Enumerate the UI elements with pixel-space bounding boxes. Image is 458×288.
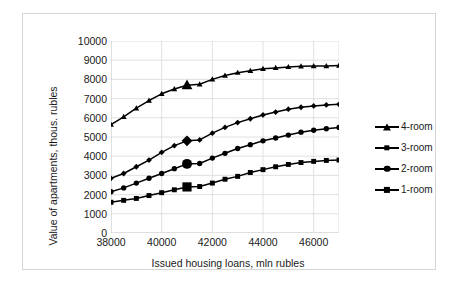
data-point-marker [311,103,317,109]
data-point-marker [324,158,329,163]
legend-item-label: 3-room [401,142,433,153]
y-tick-label: 9000 [61,55,107,65]
y-tick-label: 10000 [61,36,107,46]
data-point-marker [111,175,114,181]
data-point-marker [286,162,291,167]
x-axis-title: Issued housing loans, mln rubles [83,257,373,269]
data-point-marker [134,180,139,185]
legend-item-label: 2-room [401,163,433,174]
y-tick-label: 3000 [61,170,107,180]
legend-item-label: 4-room [401,121,433,132]
x-tick-label: 42000 [198,236,227,248]
data-point-marker [248,142,253,147]
data-point-marker [298,130,303,135]
chart-legend: 4-room3-room2-room1-room [375,118,451,202]
data-point-marker [311,128,316,133]
chart-screenshot: Value of apartments, thous. rubles 01000… [0,0,458,288]
y-tick-label: 5000 [61,132,107,142]
series-4-room [111,63,339,127]
legend-key-diamond-icon [375,142,399,154]
y-axis-tick-labels: 0100020003000400050006000700080009000100… [57,41,107,233]
y-tick-label: 8000 [61,74,107,84]
legend-item-4-room[interactable]: 4-room [375,118,451,135]
data-point-marker [273,164,278,169]
data-point-marker [222,151,227,156]
data-point-marker [210,181,215,186]
data-point-marker [159,171,164,176]
data-point-marker [336,101,339,107]
data-point-marker [111,200,113,205]
legend-item-3-room[interactable]: 3-room [375,139,451,156]
data-point-marker [311,159,316,164]
data-point-marker [121,185,126,190]
data-point-marker [273,109,279,115]
series-line [111,104,339,178]
data-point-marker [235,146,240,151]
data-point-marker [111,189,114,194]
data-point-marker [197,137,203,143]
data-point-marker [235,120,241,126]
data-point-marker [197,184,202,189]
plot-area [111,41,339,233]
x-tick-label: 46000 [299,236,328,248]
legend-marker-triangle-icon [383,123,391,130]
data-point-marker [121,198,126,203]
legend-key-square-icon [375,184,399,196]
series-3-room [111,101,339,181]
data-point-marker [159,190,164,195]
data-point-marker [285,106,291,112]
data-point-marker [182,159,192,169]
data-point-marker [223,177,228,182]
legend-key-circle-icon [375,163,399,175]
data-point-marker [336,125,339,130]
data-point-marker [273,135,278,140]
data-point-marker [286,132,291,137]
legend-item-label: 1-room [401,184,433,195]
data-point-marker [171,143,177,149]
data-point-marker [133,164,139,170]
legend-marker-square-icon [384,186,390,192]
data-point-marker [134,196,139,201]
y-tick-label: 6000 [61,113,107,123]
data-point-marker [172,187,177,192]
legend-key-triangle-icon [375,121,399,133]
data-point-marker [147,193,152,198]
data-point-marker [260,138,265,143]
y-tick-label: 4000 [61,151,107,161]
data-point-marker [235,174,240,179]
data-point-marker [172,166,177,171]
data-point-marker [146,176,151,181]
legend-item-1-room[interactable]: 1-room [375,181,451,198]
data-point-marker [298,104,304,110]
plot-svg [111,41,339,233]
x-tick-label: 38000 [96,236,125,248]
data-point-marker [323,102,329,108]
data-point-marker [197,161,202,166]
data-point-marker [260,112,266,118]
data-point-marker [261,167,266,172]
y-tick-label: 2000 [61,190,107,200]
data-point-marker [182,182,191,191]
legend-marker-diamond-icon [384,145,389,150]
data-point-marker [324,126,329,131]
series-2-room [111,125,339,195]
data-point-marker [210,155,215,160]
x-tick-label: 44000 [248,236,277,248]
data-point-marker [247,116,253,122]
data-point-marker [222,125,228,131]
legend-item-2-room[interactable]: 2-room [375,160,451,177]
y-tick-label: 1000 [61,209,107,219]
data-point-marker [337,158,339,163]
chart-frame: Value of apartments, thous. rubles 01000… [22,13,436,270]
x-tick-label: 40000 [147,236,176,248]
data-point-marker [209,130,215,136]
series-1-room [111,158,339,205]
x-axis-tick-labels: 3800040000420004400046000 [111,236,339,252]
legend-marker-circle-icon [384,165,391,172]
data-point-marker [248,170,253,175]
data-point-marker [299,160,304,165]
y-tick-label: 7000 [61,94,107,104]
